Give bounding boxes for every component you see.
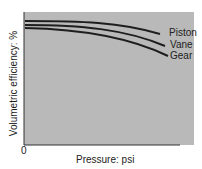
legend-piston: Piston bbox=[169, 27, 197, 38]
y-axis-label: Volumetric efficiency: % bbox=[8, 29, 19, 139]
x-axis-label: Pressure: psi bbox=[76, 154, 134, 165]
chart-canvas bbox=[0, 0, 202, 169]
legend-vane: Vane bbox=[170, 39, 193, 50]
origin-label: 0 bbox=[21, 145, 27, 156]
legend-gear: Gear bbox=[170, 50, 192, 61]
